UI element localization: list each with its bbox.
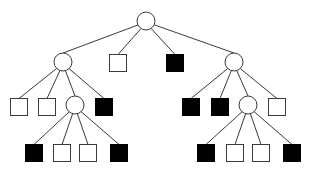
- tree-edge: [154, 25, 234, 53]
- tree-edge: [77, 114, 88, 145]
- filled-leaf-square: [284, 145, 301, 162]
- internal-node-circle: [239, 96, 257, 114]
- tree-edge: [151, 28, 175, 54]
- empty-leaf-square: [39, 99, 56, 116]
- empty-leaf-square: [269, 99, 286, 116]
- internal-node-circle: [54, 53, 72, 71]
- filled-leaf-square: [26, 145, 43, 162]
- tree-edge: [220, 71, 231, 99]
- tree-nodes: [11, 12, 301, 162]
- root-node-circle: [137, 12, 155, 30]
- filled-leaf-square: [212, 99, 229, 116]
- tree-edge: [63, 25, 138, 53]
- tree-diagram: [0, 0, 311, 173]
- empty-leaf-square: [11, 99, 28, 116]
- tree-edge: [118, 28, 141, 54]
- tree-edge: [237, 71, 248, 96]
- tree-edge: [250, 114, 261, 145]
- empty-leaf-square: [227, 145, 244, 162]
- filled-leaf-square: [111, 145, 128, 162]
- filled-leaf-square: [198, 145, 215, 162]
- empty-leaf-square: [54, 145, 71, 162]
- tree-edge: [235, 114, 246, 145]
- filled-leaf-square: [183, 99, 200, 116]
- filled-leaf-square: [96, 99, 113, 116]
- tree-edge: [19, 68, 57, 98]
- internal-node-circle: [66, 96, 84, 114]
- filled-leaf-square: [167, 55, 184, 72]
- empty-leaf-square: [80, 145, 97, 162]
- tree-edge: [62, 114, 73, 145]
- empty-leaf-square: [253, 145, 270, 162]
- empty-leaf-square: [110, 55, 127, 72]
- tree-edge: [65, 71, 75, 96]
- tree-edge: [240, 69, 277, 99]
- tree-edges: [19, 25, 292, 145]
- internal-node-circle: [225, 53, 243, 71]
